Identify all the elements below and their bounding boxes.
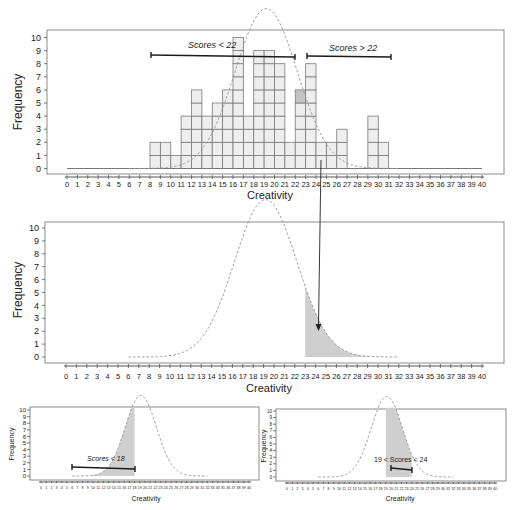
x-tick-label: 1 [75, 180, 79, 189]
x-tick-label: 33 [405, 180, 413, 189]
x-tick-label: 40 [478, 372, 486, 381]
x-tick-label: 0 [40, 486, 42, 490]
x-tick-label: 0 [65, 180, 69, 189]
x-tick-label: 31 [200, 486, 204, 490]
x-tick-label: 22 [153, 486, 157, 490]
lower-tail-x-axis: 0123456789101112131415161718192021222324… [39, 481, 251, 490]
x-tick-label: 24 [410, 487, 414, 491]
histogram-bar-cell [223, 155, 233, 168]
x-tick-label: 32 [451, 487, 455, 491]
lower-tail-panel: 012345678910 012345678910111213141516171… [8, 407, 259, 503]
y-tick-label: 2 [36, 137, 41, 147]
x-tick-label: 3 [302, 487, 304, 491]
histogram-bar-cell [285, 142, 295, 155]
histogram-bar-cell [233, 90, 243, 103]
y-tick-label: 1 [34, 339, 39, 349]
x-tick-label: 1 [291, 487, 293, 491]
x-tick-label: 34 [416, 180, 424, 189]
histogram-bar-cell [264, 103, 274, 116]
tail-area-frame [45, 222, 504, 363]
x-tick-label: 19 [260, 180, 268, 189]
x-tick-label: 21 [280, 372, 288, 381]
x-tick-label: 4 [307, 487, 309, 491]
x-tick-label: 32 [395, 180, 403, 189]
histogram-bar-cell [264, 142, 274, 155]
x-tick-label: 17 [239, 180, 247, 189]
histogram-bar-cell [150, 155, 160, 168]
histogram-bar-cell [368, 155, 378, 168]
histogram-bar-cell [181, 129, 191, 142]
y-tick-label: 9 [269, 415, 272, 420]
y-tick-label: 10 [29, 223, 39, 233]
x-tick-label: 2 [296, 487, 298, 491]
y-tick-label: 6 [23, 434, 27, 440]
x-tick-label: 7 [322, 487, 324, 491]
histogram-bar-cell [181, 155, 191, 168]
x-tick-label: 10 [167, 180, 175, 189]
histogram-bar-cell [254, 116, 264, 129]
x-tick-label: 39 [242, 486, 246, 490]
y-tick-label: 10 [19, 407, 26, 413]
x-tick-label: 27 [179, 486, 183, 490]
y-tick-label: 5 [269, 442, 272, 447]
x-tick-label: 21 [394, 487, 398, 491]
histogram-bar-cell [181, 142, 191, 155]
x-tick-label: 29 [364, 180, 372, 189]
x-tick-label: 15 [363, 487, 367, 491]
x-tick-label: 15 [117, 486, 121, 490]
x-tick-label: 12 [187, 180, 195, 189]
histogram-bar-cell [233, 129, 243, 142]
x-tick-label: 13 [198, 180, 206, 189]
y-tick-label: 9 [36, 46, 41, 56]
x-tick-label: 0 [286, 487, 288, 491]
x-tick-label: 15 [218, 180, 226, 189]
x-tick-label: 38 [457, 180, 465, 189]
y-tick-label: 1 [23, 467, 27, 473]
figure: 012345678910 012345678910111213141516171… [0, 0, 521, 510]
histogram-bar-cell [243, 142, 253, 155]
y-tick-label: 6 [269, 435, 272, 440]
histogram-bar-cell [275, 155, 285, 168]
histogram-bar-cell [378, 142, 388, 155]
y-tick-label: 2 [34, 326, 39, 336]
histogram-bar-cell [337, 142, 347, 155]
x-tick-label: 16 [368, 487, 372, 491]
middle-band-y-label: Frequency [260, 429, 268, 463]
x-tick-label: 26 [420, 487, 424, 491]
histogram-bar-cell [306, 64, 316, 77]
y-tick-label: 7 [269, 428, 272, 433]
x-tick-label: 23 [301, 372, 309, 381]
x-tick-label: 40 [478, 180, 486, 189]
x-tick-label: 22 [291, 372, 299, 381]
histogram-bar-cell [275, 77, 285, 90]
y-tick-label: 4 [269, 448, 272, 453]
x-tick-label: 6 [317, 487, 319, 491]
x-tick-label: 22 [399, 487, 403, 491]
x-tick-label: 14 [112, 486, 116, 490]
x-tick-label: 38 [483, 487, 487, 491]
histogram-bar-cell [254, 64, 264, 77]
x-tick-label: 7 [137, 372, 141, 381]
histogram-bar-cell [264, 77, 274, 90]
x-tick-label: 2 [85, 372, 89, 381]
x-tick-label: 35 [426, 180, 434, 189]
x-tick-label: 11 [177, 180, 185, 189]
histogram-bar-cell [243, 116, 253, 129]
histogram-bar-cell [264, 155, 274, 168]
x-tick-label: 17 [373, 487, 377, 491]
x-tick-label: 24 [311, 372, 319, 381]
histogram-bar-cell [202, 116, 212, 129]
x-tick-label: 23 [405, 487, 409, 491]
histogram-bar-cell [202, 142, 212, 155]
histogram-bar-cell [264, 64, 274, 77]
middle-band-x-axis: 0123456789101112131415161718192021222324… [285, 482, 497, 491]
histogram-bar-cell [368, 116, 378, 129]
x-tick-label: 16 [228, 372, 236, 381]
y-tick-label: 7 [23, 427, 27, 433]
histogram-bar-cell [254, 155, 264, 168]
x-tick-label: 8 [148, 180, 152, 189]
x-tick-label: 17 [127, 486, 131, 490]
x-tick-label: 20 [389, 487, 393, 491]
x-tick-label: 36 [436, 180, 444, 189]
histogram-bar-cell [192, 116, 202, 129]
